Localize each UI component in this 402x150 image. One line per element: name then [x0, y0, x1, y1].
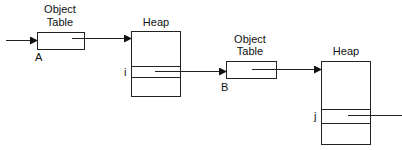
- heap-2-box: [322, 62, 371, 145]
- heap-2: Heap j: [313, 45, 371, 145]
- object-table-b: Object Table B: [221, 33, 277, 93]
- pointer-label-b: B: [221, 81, 228, 93]
- heap-1-box: [132, 32, 181, 97]
- heap-2-title: Heap: [333, 45, 359, 57]
- pointer-label-a: A: [35, 51, 43, 63]
- object-table-a-title-line1: Object: [44, 3, 76, 15]
- heap-2-slot-label: j: [313, 110, 316, 122]
- object-table-indirection-diagram: Object Table A Heap i Object Table B Hea…: [0, 0, 402, 150]
- object-table-a-entry: [38, 33, 85, 50]
- heap-1-slot-label: i: [124, 66, 126, 78]
- object-table-b-title-line2: Table: [237, 45, 263, 57]
- object-table-a: Object Table A: [35, 3, 85, 63]
- heap-1: Heap i: [124, 16, 181, 97]
- object-table-b-title-line1: Object: [234, 33, 266, 45]
- object-table-a-title-line2: Table: [47, 16, 73, 28]
- heap-1-title: Heap: [143, 16, 169, 28]
